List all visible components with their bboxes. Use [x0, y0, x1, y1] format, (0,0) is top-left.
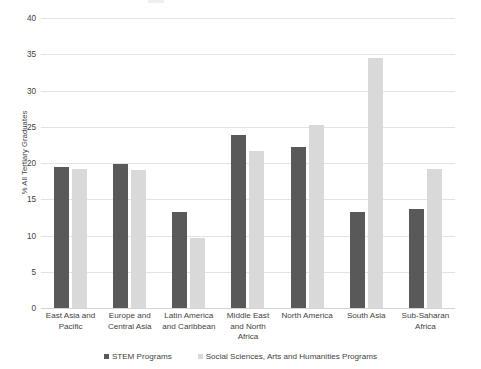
- bar[interactable]: [190, 238, 205, 308]
- bar-group: [396, 18, 455, 308]
- legend-item[interactable]: Social Sciences, Arts and Humanities Pro…: [198, 352, 377, 361]
- bar[interactable]: [309, 125, 324, 308]
- legend-swatch-icon: [104, 354, 109, 359]
- x-axis-category-label: North America: [278, 311, 337, 322]
- legend-label: Social Sciences, Arts and Humanities Pro…: [206, 352, 377, 361]
- chart-legend: STEM ProgramsSocial Sciences, Arts and H…: [0, 352, 481, 361]
- bar-group: [100, 18, 159, 308]
- bar-chart: % All Tertiary Graduates 051015202530354…: [0, 0, 481, 369]
- x-axis-category-labels: East Asia andPacificEurope andCentral As…: [41, 311, 455, 353]
- bar-group: [218, 18, 277, 308]
- bar[interactable]: [231, 135, 246, 308]
- y-axis-tick-label: 30: [2, 86, 36, 95]
- legend-item[interactable]: STEM Programs: [104, 352, 172, 361]
- x-axis-category-label: Europe andCentral Asia: [100, 311, 159, 332]
- bar-group: [159, 18, 218, 308]
- gridline: [41, 308, 455, 309]
- bar[interactable]: [54, 167, 69, 308]
- bar[interactable]: [350, 212, 365, 308]
- bar[interactable]: [249, 151, 264, 308]
- x-axis-category-label: Latin Americaand Caribbean: [159, 311, 218, 332]
- y-axis-tick-label: 5: [2, 267, 36, 276]
- y-axis-tick-label: 10: [2, 231, 36, 240]
- bar[interactable]: [368, 58, 383, 308]
- legend-label: STEM Programs: [112, 352, 172, 361]
- bar[interactable]: [172, 212, 187, 308]
- bar[interactable]: [409, 209, 424, 308]
- top-edge-artifact: [148, 0, 164, 3]
- y-axis-tick-label: 25: [2, 122, 36, 131]
- bar[interactable]: [291, 147, 306, 308]
- y-axis-tick-label: 40: [2, 14, 36, 23]
- y-axis-tick-label: 15: [2, 195, 36, 204]
- y-axis-tick-label: 0: [2, 304, 36, 313]
- bar[interactable]: [131, 170, 146, 308]
- y-axis-tick-labels: 0510152025303540: [0, 18, 36, 308]
- x-axis-category-label: East Asia andPacific: [41, 311, 100, 332]
- plot-area: [41, 18, 455, 308]
- bar[interactable]: [427, 169, 442, 308]
- bar[interactable]: [113, 164, 128, 308]
- x-axis-category-label: South Asia: [337, 311, 396, 322]
- y-axis-tick-label: 20: [2, 159, 36, 168]
- bar-group: [41, 18, 100, 308]
- x-axis-category-label: Sub-SaharanAfrica: [396, 311, 455, 332]
- x-axis-category-label: Middle Eastand NorthAfrica: [218, 311, 277, 343]
- legend-swatch-icon: [198, 354, 203, 359]
- bar-group: [278, 18, 337, 308]
- y-axis-tick-label: 35: [2, 50, 36, 59]
- bar-group: [337, 18, 396, 308]
- bar[interactable]: [72, 169, 87, 308]
